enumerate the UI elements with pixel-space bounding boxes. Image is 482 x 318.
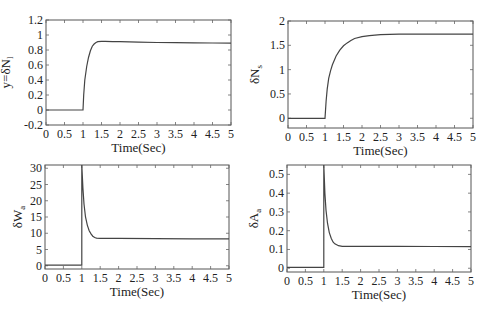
figure: 00.511.522.533.544.55-0.200.20.40.60.811… [0,0,482,318]
y-tick-label: 0 [278,261,284,275]
x-tick-label: 1.5 [335,274,350,288]
axes-frame [288,21,473,128]
y-tick-label: 0.5 [270,87,285,101]
x-tick-label: 3 [396,130,402,144]
x-tick-label: 1 [321,274,327,288]
y-tick-label: 0.4 [269,186,284,200]
x-tick-label: 0 [285,130,291,144]
x-tick-label: 4 [433,130,439,144]
y-tick-label: 30 [30,161,42,175]
y-tick-label: 25 [30,178,42,192]
y-tick-label: 0.5 [269,167,284,181]
y-tick-label: 1 [37,28,43,42]
y-tick-label: 0.1 [269,242,284,256]
x-tick-label: 3 [152,271,158,285]
x-tick-label: 4 [431,274,437,288]
x-tick-label: 1 [322,130,328,144]
x-tick-label: 0 [43,127,49,141]
x-tick-label: 0.5 [56,271,71,285]
x-axis-label: Time(Sec) [111,140,165,155]
y-tick-label: 0.8 [28,43,43,57]
x-tick-label: 0.5 [299,130,314,144]
x-tick-label: 2.5 [131,127,146,141]
axes-frame [45,165,229,269]
x-tick-label: 4 [191,127,197,141]
x-tick-label: 2 [117,127,123,141]
x-tick-label: 4.5 [447,130,462,144]
x-tick-label: 0.5 [57,127,72,141]
y-tick-label: 0.3 [269,205,284,219]
y-axis-label: δAa [246,209,263,229]
x-tick-label: 2 [358,274,364,288]
y-tick-label: 2 [279,14,285,28]
y-tick-label: 1.2 [28,13,43,27]
y-tick-label: 20 [30,194,42,208]
y-axis-label: δWa [10,206,27,228]
x-tick-label: 3 [154,127,160,141]
x-tick-label: 2 [116,271,122,285]
axes-frame [287,165,471,272]
axes-frame [46,20,231,125]
y-tick-label: 0 [36,259,42,273]
x-tick-label: 4.5 [205,127,220,141]
y-tick-label: -0.2 [24,118,43,132]
y-tick-label: 1.5 [270,38,285,52]
y-tick-label: 0.6 [28,58,43,72]
y-tick-label: 5 [36,243,42,257]
x-tick-label: 1 [79,271,85,285]
subplot-top-left: 00.511.522.533.544.55-0.200.20.40.60.811… [0,13,234,155]
x-tick-label: 0 [284,274,290,288]
x-axis-label: Time(Sec) [110,284,164,299]
y-tick-label: 0.2 [28,88,43,102]
x-tick-label: 1.5 [94,127,109,141]
x-tick-label: 3 [394,274,400,288]
x-tick-label: 5 [228,127,234,141]
x-tick-label: 2.5 [130,271,145,285]
y-tick-label: 15 [30,210,42,224]
y-tick-label: 0 [37,103,43,117]
x-tick-label: 0 [42,271,48,285]
y-axis-label: y=δNl [0,56,15,88]
x-tick-label: 4.5 [445,274,460,288]
x-tick-label: 3.5 [166,271,181,285]
x-tick-label: 3.5 [408,274,423,288]
x-tick-label: 2.5 [373,130,388,144]
x-tick-label: 2.5 [372,274,387,288]
y-tick-label: 0.4 [28,73,43,87]
y-tick-label: 0.2 [269,224,284,238]
x-tick-label: 5 [470,130,476,144]
y-tick-label: 10 [30,226,42,240]
x-axis-label: Time(Sec) [353,143,407,158]
subplot-bottom-right: 00.511.522.533.544.5500.10.20.30.40.5Tim… [246,165,475,302]
subplot-bottom-left: 00.511.522.533.544.55051015202530Time(Se… [10,161,232,299]
series-line-response [287,165,471,267]
x-tick-label: 0.5 [298,274,313,288]
x-tick-label: 3.5 [168,127,183,141]
x-tick-label: 3.5 [410,130,425,144]
series-line-response [46,41,231,110]
series-line-response [45,165,229,265]
x-tick-label: 1.5 [336,130,351,144]
x-axis-label: Time(Sec) [352,287,406,302]
y-tick-label: 1 [279,63,285,77]
x-tick-label: 4.5 [203,271,218,285]
y-tick-label: 0 [279,111,285,125]
y-axis-label: δNs [247,65,264,85]
x-tick-label: 5 [226,271,232,285]
x-tick-label: 5 [468,274,474,288]
x-tick-label: 4 [189,271,195,285]
x-tick-label: 1 [80,127,86,141]
x-tick-label: 2 [359,130,365,144]
series-line-response [288,34,473,118]
subplot-top-right: 00.511.522.533.544.5500.511.52Time(Sec)δ… [247,14,477,158]
x-tick-label: 1.5 [93,271,108,285]
